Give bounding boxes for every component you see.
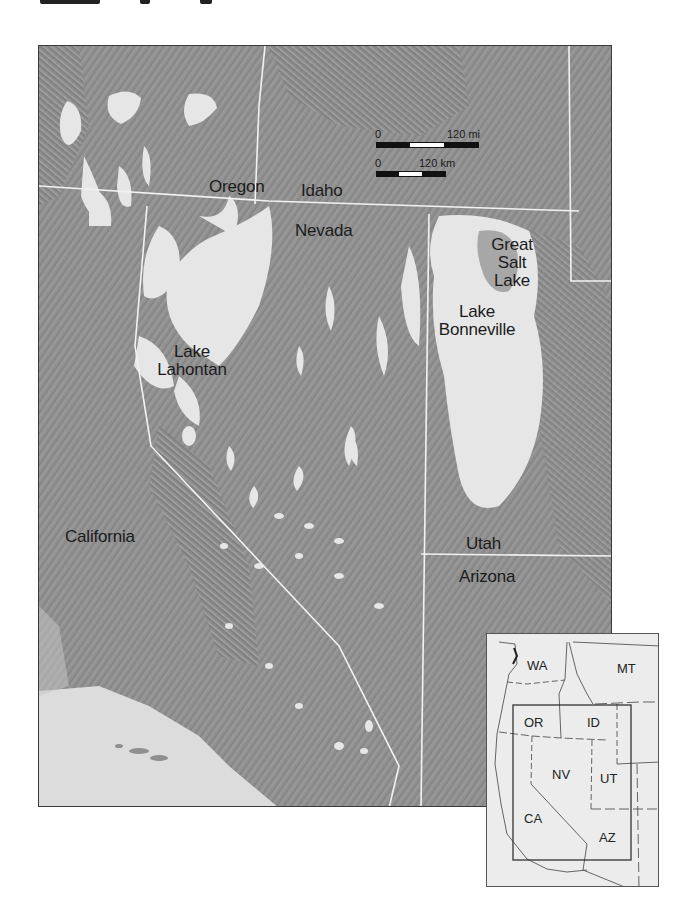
state-label-california: California xyxy=(65,528,135,546)
scale-km-start: 0 xyxy=(375,157,381,169)
page-title-fragment xyxy=(40,0,280,4)
state-label-arizona: Arizona xyxy=(459,568,515,586)
lake-label-lake-lahontan: Lake Lahontan xyxy=(147,343,237,379)
inset-label-mt: MT xyxy=(617,661,636,676)
inset-label-id: ID xyxy=(587,715,600,730)
scale-miles-start: 0 xyxy=(375,128,381,140)
inset-label-nv: NV xyxy=(552,767,570,782)
scale-miles-bar xyxy=(376,142,479,148)
inset-label-az: AZ xyxy=(599,830,616,845)
lake-label-lake-bonneville: Lake Bonneville xyxy=(432,303,522,339)
scale-km-end: 120 km xyxy=(419,157,455,169)
state-label-idaho: Idaho xyxy=(301,182,343,200)
state-label-oregon: Oregon xyxy=(209,178,265,196)
inset-label-wa: WA xyxy=(527,658,547,673)
inset-label-ca: CA xyxy=(524,811,542,826)
state-label-nevada: Nevada xyxy=(295,222,352,240)
lake-label-great-salt-lake: Great Salt Lake xyxy=(482,236,542,290)
scale-km-bar xyxy=(376,171,446,177)
inset-label-or: OR xyxy=(524,715,544,730)
locator-inset-map: WA MT OR ID NV UT CA AZ xyxy=(486,633,659,887)
scale-miles-end: 120 mi xyxy=(447,128,480,140)
scale-bar-km: 0 120 km xyxy=(375,157,485,187)
scale-bar-miles: 0 120 mi xyxy=(375,128,485,158)
inset-label-ut: UT xyxy=(600,771,617,786)
state-label-utah: Utah xyxy=(466,535,501,553)
